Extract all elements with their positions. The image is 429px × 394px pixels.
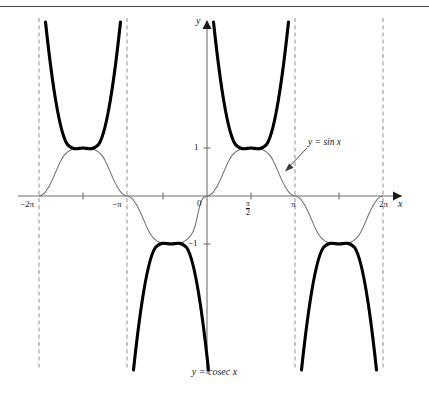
xtick-label-2pi: 2π xyxy=(379,200,388,209)
xtick-label-minus-pi: −π xyxy=(112,200,122,209)
y-axis-label: y xyxy=(196,16,200,26)
xtick-label-pi-over-2: π 2 xyxy=(246,200,250,217)
cosec-sin-graph xyxy=(0,0,429,394)
y-axis-arrowhead xyxy=(203,20,212,29)
sin-curve-annotation-label: y = sin x xyxy=(308,137,341,147)
xtick-label-pi-over-2-numerator: π xyxy=(246,200,250,208)
xtick-label-pi-over-2-denominator: 2 xyxy=(246,208,250,217)
xtick-label-minus-2pi: −2π xyxy=(20,200,34,209)
sin-annotation-arrow xyxy=(288,148,307,168)
x-axis-label: x xyxy=(398,199,402,209)
ytick-label-minus-one: −1 xyxy=(188,239,198,248)
origin-label: 0 xyxy=(197,199,202,208)
axes xyxy=(18,24,402,374)
sin-annotation-arrowhead xyxy=(285,163,294,171)
cosec-branch-2 xyxy=(134,243,209,370)
cosec-branch-1 xyxy=(46,22,121,149)
figure-caption: y = cosec x xyxy=(0,366,429,377)
ytick-label-one: 1 xyxy=(194,143,199,152)
cosec-branch-4 xyxy=(302,243,377,370)
xtick-label-pi: π xyxy=(291,200,296,209)
cosec-branch-3 xyxy=(214,22,289,149)
